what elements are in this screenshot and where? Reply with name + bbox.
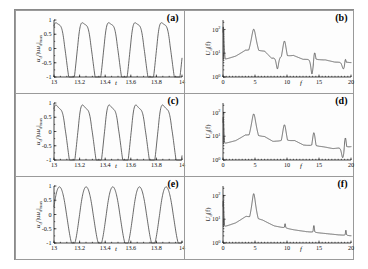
panel-e: 1313.213.413.613.81410.50-0.5-1tud/|uud|… (15, 176, 185, 260)
svg-text:-0.5: -0.5 (41, 224, 51, 231)
svg-text:13.4: 13.4 (99, 244, 110, 251)
svg-text:20: 20 (347, 244, 353, 251)
svg-text:0: 0 (48, 44, 51, 51)
svg-text:-1: -1 (46, 73, 51, 80)
svg-text:5: 5 (253, 78, 256, 85)
svg-text:102: 102 (212, 108, 220, 115)
svg-text:13.6: 13.6 (125, 161, 136, 168)
svg-text:Ud(f): Ud(f) (204, 123, 213, 138)
svg-text:20: 20 (347, 78, 353, 85)
panel-d-content: 05101520102101100fUd(f) (204, 103, 354, 170)
panel-e-label: (e) (167, 178, 178, 189)
svg-text:13.2: 13.2 (74, 161, 85, 168)
panel-a-content: 1313.213.413.613.81410.50-0.5-1tud/|uud|… (34, 16, 185, 86)
panel-a-svg: 1313.213.413.613.81410.50-0.5-1tud/|uud|… (16, 11, 186, 95)
panel-f-svg: 05101520102101100fUd(f) (185, 177, 355, 261)
svg-text:-0.5: -0.5 (41, 58, 51, 65)
svg-text:13.2: 13.2 (74, 244, 85, 251)
panel-d: 05101520102101100fUd(f) (d) (184, 93, 354, 177)
panel-b-label: (b) (335, 12, 347, 23)
panel-a-label: (a) (167, 12, 179, 23)
svg-text:1: 1 (48, 99, 51, 106)
svg-text:f: f (300, 161, 303, 169)
panel-e-content: 1313.213.413.613.81410.50-0.5-1tud/|uud|… (34, 182, 185, 252)
svg-text:0: 0 (48, 127, 51, 134)
panel-c-label: (c) (167, 95, 178, 106)
svg-text:0: 0 (48, 210, 51, 217)
panel-d-plot: 05101520102101100fUd(f) (185, 94, 353, 176)
panel-a-plot: 1313.213.413.613.81410.50-0.5-1tud/|uud|… (16, 11, 184, 93)
svg-text:0.5: 0.5 (43, 196, 51, 203)
svg-text:10: 10 (283, 161, 289, 168)
svg-text:101: 101 (212, 49, 220, 56)
svg-text:20: 20 (347, 161, 353, 168)
svg-text:t: t (115, 78, 118, 86)
svg-text:13.4: 13.4 (99, 161, 110, 168)
svg-text:-1: -1 (46, 156, 51, 163)
svg-text:Ud(f): Ud(f) (204, 40, 213, 55)
svg-text:13.6: 13.6 (125, 244, 136, 251)
svg-text:ud/|uud|max: ud/|uud|max (34, 34, 43, 62)
svg-text:102: 102 (212, 25, 220, 32)
svg-text:13.2: 13.2 (74, 78, 85, 85)
panel-b-svg: 05101520102101100fUd(f) (185, 11, 355, 95)
svg-text:t: t (115, 161, 118, 169)
svg-text:ud/|uud|max: ud/|uud|max (34, 117, 43, 145)
svg-text:0: 0 (221, 161, 224, 168)
panel-b-content: 05101520102101100fUd(f) (204, 20, 354, 87)
svg-text:10: 10 (283, 78, 289, 85)
panel-a: 1313.213.413.613.81410.50-0.5-1tud/|uud|… (15, 10, 185, 94)
panel-b-plot: 05101520102101100fUd(f) (185, 11, 353, 93)
svg-text:0.5: 0.5 (43, 113, 51, 120)
panel-c-plot: 1313.213.413.613.81410.50-0.5-1tud/|uud|… (16, 94, 184, 176)
svg-text:100: 100 (212, 73, 221, 80)
svg-text:5: 5 (253, 161, 256, 168)
svg-text:1: 1 (48, 182, 51, 189)
svg-text:t: t (115, 244, 118, 252)
panel-c: 1313.213.413.613.81410.50-0.5-1tud/|uud|… (15, 93, 185, 177)
panel-c-content: 1313.213.413.613.81410.50-0.5-1tud/|uud|… (34, 99, 185, 169)
svg-text:13.8: 13.8 (150, 78, 161, 85)
svg-text:1: 1 (48, 16, 51, 23)
svg-text:15: 15 (315, 161, 321, 168)
svg-text:13: 13 (50, 78, 56, 85)
svg-text:101: 101 (212, 215, 220, 222)
svg-text:13.6: 13.6 (125, 78, 136, 85)
svg-text:15: 15 (315, 244, 321, 251)
svg-text:10: 10 (283, 244, 289, 251)
svg-text:-0.5: -0.5 (41, 141, 51, 148)
svg-text:101: 101 (212, 132, 220, 139)
panel-f-plot: 05101520102101100fUd(f) (185, 177, 353, 259)
svg-text:13: 13 (50, 244, 56, 251)
panel-f: 05101520102101100fUd(f) (f) (184, 176, 354, 260)
svg-text:0: 0 (221, 244, 224, 251)
svg-text:100: 100 (212, 156, 221, 163)
svg-text:5: 5 (253, 244, 256, 251)
panel-f-content: 05101520102101100fUd(f) (204, 186, 354, 253)
svg-text:f: f (300, 244, 303, 252)
panel-d-svg: 05101520102101100fUd(f) (185, 94, 355, 178)
svg-text:f: f (300, 78, 303, 86)
svg-text:0.5: 0.5 (43, 30, 51, 37)
panel-d-label: (d) (335, 95, 347, 106)
svg-text:15: 15 (315, 78, 321, 85)
svg-text:13: 13 (50, 161, 56, 168)
svg-text:ud/|uud|max: ud/|uud|max (34, 200, 43, 228)
panel-e-svg: 1313.213.413.613.81410.50-0.5-1tud/|uud|… (16, 177, 186, 261)
svg-text:102: 102 (212, 191, 220, 198)
svg-text:13.4: 13.4 (99, 78, 110, 85)
panel-b: 05101520102101100fUd(f) (b) (184, 10, 354, 94)
svg-text:Ud(f): Ud(f) (204, 206, 213, 221)
svg-text:-1: -1 (46, 239, 51, 246)
svg-text:13.8: 13.8 (150, 244, 161, 251)
panel-f-label: (f) (338, 178, 348, 189)
figure-grid: 1313.213.413.613.81410.50-0.5-1tud/|uud|… (14, 9, 354, 260)
svg-text:13.8: 13.8 (150, 161, 161, 168)
panel-e-plot: 1313.213.413.613.81410.50-0.5-1tud/|uud|… (16, 177, 184, 259)
svg-text:100: 100 (212, 239, 221, 246)
svg-text:0: 0 (221, 78, 224, 85)
panel-c-svg: 1313.213.413.613.81410.50-0.5-1tud/|uud|… (16, 94, 186, 178)
